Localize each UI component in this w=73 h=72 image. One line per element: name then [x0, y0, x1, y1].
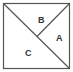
- square-partition-diagram: B A C: [0, 0, 73, 72]
- region-label-a: A: [56, 33, 63, 43]
- region-label-c: C: [25, 48, 32, 58]
- region-label-b: B: [38, 15, 45, 25]
